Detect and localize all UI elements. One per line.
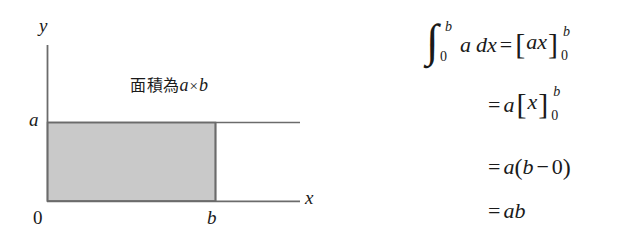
bracket-open-1: [ <box>515 27 525 60</box>
term-zero-3: 0 <box>552 156 563 178</box>
integral-lower-limit: 0 <box>440 50 447 64</box>
equals-sign-4: = <box>485 200 503 222</box>
bracket-upper-limit-1: b <box>563 25 570 39</box>
minus-sign-3: − <box>533 156 551 178</box>
shaded-area-rectangle <box>48 123 216 202</box>
equation-block: ∫ b 0 a dx = [ax] b 0 = a [x] <box>330 0 629 250</box>
area-caption-cjk-text: 面積為 <box>130 76 180 95</box>
x-axis-label: x <box>305 188 313 207</box>
area-diagram: y x a b 0 面積為a×b <box>0 0 330 250</box>
differential-dx: dx <box>471 34 497 56</box>
equation-line-4: = ab <box>485 200 525 222</box>
area-caption-var-b: b <box>199 75 208 95</box>
bracket-close-2: ] <box>538 87 548 120</box>
area-caption-var-a: a <box>180 75 189 95</box>
bracket-expression-x: [x] b 0 <box>514 90 560 120</box>
coefficient-a-3: a <box>503 156 514 178</box>
equation-line-3: = a (b−0) <box>485 155 571 179</box>
equation-line-2: = a [x] b 0 <box>485 90 560 120</box>
equals-sign-2: = <box>485 94 503 116</box>
y-axis-label: y <box>39 16 47 35</box>
origin-label: 0 <box>33 208 43 227</box>
y-tick-label-a: a <box>29 110 39 129</box>
bracket-inner-x: x <box>526 89 538 114</box>
term-b-3: b <box>522 156 533 178</box>
equation-line-1: ∫ b 0 a dx = [ax] b 0 <box>426 22 570 71</box>
paren-close-3: ) <box>563 155 571 179</box>
result-ab: ab <box>503 200 525 222</box>
bracket-lower-limit-1: 0 <box>561 49 568 63</box>
bracket-expression-ax: [ax] b 0 <box>515 30 570 60</box>
equals-sign-1: = <box>497 34 515 56</box>
multiplication-sign-icon: × <box>189 78 199 94</box>
bracket-upper-limit-2: b <box>553 85 560 99</box>
integral-upper-limit: b <box>445 20 452 34</box>
integrand-a: a <box>460 34 471 56</box>
bracket-open-2: [ <box>516 87 526 120</box>
equals-sign-3: = <box>485 156 503 178</box>
area-caption: 面積為a×b <box>130 76 208 94</box>
bracket-close-1: ] <box>548 27 558 60</box>
x-tick-label-b: b <box>207 208 217 227</box>
bracket-lower-limit-2: 0 <box>551 109 558 123</box>
coefficient-a-2: a <box>503 94 514 116</box>
axes-and-rectangle-svg <box>0 0 330 250</box>
paren-open-3: ( <box>514 155 522 179</box>
figure-page: y x a b 0 面積為a×b ∫ b 0 a dx = [ax] <box>0 0 629 250</box>
bracket-inner-ax: ax <box>525 29 548 54</box>
integral-sign-icon: ∫ <box>426 18 439 64</box>
integral-with-limits: ∫ b 0 <box>426 22 460 68</box>
